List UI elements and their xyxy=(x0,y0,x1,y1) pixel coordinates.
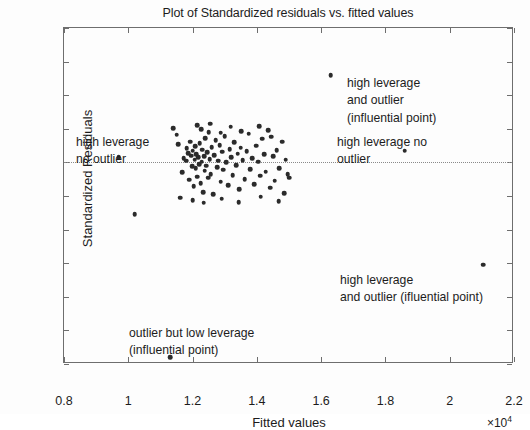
data-point xyxy=(254,143,259,148)
data-point xyxy=(219,196,224,201)
x-tick-label: 2 xyxy=(425,394,475,408)
x-tick-label: 1.2 xyxy=(168,394,218,408)
annotation-outlier-but-low-leverage: outlier but low leverage (influential po… xyxy=(129,325,254,360)
chart-title: Plot of Standardized residuals vs. fitte… xyxy=(63,6,513,20)
data-point xyxy=(193,166,198,171)
data-point xyxy=(248,167,253,172)
y-tick-mark-right xyxy=(507,364,512,365)
data-point xyxy=(216,158,221,163)
data-point xyxy=(215,165,220,170)
data-point xyxy=(199,127,204,132)
data-point xyxy=(481,263,486,268)
data-point xyxy=(234,163,239,168)
data-point xyxy=(171,126,176,131)
y-axis-title: Standardized Residuals xyxy=(80,64,95,294)
data-point xyxy=(191,198,196,203)
data-point xyxy=(282,191,287,196)
data-point xyxy=(201,190,206,195)
data-point xyxy=(268,185,273,190)
data-point xyxy=(187,178,192,183)
data-point xyxy=(274,148,279,153)
data-point xyxy=(256,159,261,164)
data-point xyxy=(244,149,249,154)
data-point xyxy=(240,158,245,163)
data-point xyxy=(252,182,257,187)
x-axis-multiplier: ×104 xyxy=(487,414,512,430)
data-point xyxy=(193,144,198,149)
data-point xyxy=(184,158,189,163)
annotation-high-leverage-and-outlier-low: high leverage and outlier (ifluential po… xyxy=(340,272,483,307)
data-point xyxy=(246,131,251,136)
data-point xyxy=(273,179,278,184)
data-point xyxy=(287,175,292,180)
plot-frame: 43210−1−2−3−4−5−6 0.811.21.41.61.822.2 S… xyxy=(63,27,513,363)
data-point xyxy=(197,141,202,146)
data-point xyxy=(258,174,263,179)
data-point xyxy=(213,138,218,143)
data-point xyxy=(283,157,288,162)
data-point xyxy=(280,139,285,144)
x-axis-title: Fitted values xyxy=(64,415,514,430)
annotation-high-leverage-no-outlier-left: high leverage no outlier xyxy=(76,134,149,169)
data-point xyxy=(199,159,204,164)
data-point xyxy=(178,195,183,200)
data-point xyxy=(202,154,207,159)
data-point xyxy=(201,200,206,205)
data-point xyxy=(239,129,244,134)
data-point xyxy=(188,139,193,144)
data-point xyxy=(264,170,269,175)
data-point xyxy=(238,145,243,150)
data-point xyxy=(262,152,267,157)
data-point xyxy=(195,174,200,179)
x-tick-label: 1 xyxy=(103,394,153,408)
annotation-high-leverage-no-outlier-right: high leverage no outlier xyxy=(337,134,427,169)
data-point xyxy=(132,212,137,217)
data-point xyxy=(269,135,274,140)
data-point xyxy=(219,180,224,185)
data-point xyxy=(224,160,229,165)
x-tick-mark-top xyxy=(514,28,515,33)
data-point xyxy=(208,172,213,177)
x-tick-label: 1.8 xyxy=(360,394,410,408)
data-point xyxy=(230,173,235,178)
data-point xyxy=(211,192,216,197)
data-point xyxy=(266,128,271,133)
data-point xyxy=(260,137,265,142)
data-point xyxy=(232,140,237,145)
data-point xyxy=(219,131,224,136)
data-point xyxy=(204,163,209,168)
data-point xyxy=(237,187,242,192)
data-point xyxy=(212,153,217,158)
data-point xyxy=(328,73,333,78)
x-tick-label: 1.6 xyxy=(296,394,346,408)
x-axis-multiplier-exponent: 4 xyxy=(507,414,512,424)
data-point xyxy=(220,149,225,154)
data-point xyxy=(250,156,255,161)
data-point xyxy=(228,124,233,129)
data-point xyxy=(242,177,247,182)
data-point xyxy=(226,183,231,188)
data-point xyxy=(227,147,232,152)
data-point xyxy=(176,142,181,147)
x-tick-label: 2.2 xyxy=(489,394,530,408)
y-tick-mark xyxy=(64,364,69,365)
x-tick-label: 0.8 xyxy=(39,394,89,408)
data-point xyxy=(210,145,215,150)
data-point xyxy=(206,130,211,135)
plot-area xyxy=(64,28,512,362)
data-point xyxy=(202,169,207,174)
data-point xyxy=(208,121,213,126)
data-point xyxy=(257,124,262,129)
x-axis-multiplier-base: ×10 xyxy=(487,416,507,430)
x-tick-mark xyxy=(514,357,515,362)
data-point xyxy=(205,150,210,155)
data-point xyxy=(221,167,226,172)
data-point xyxy=(180,170,185,175)
data-point xyxy=(191,184,196,189)
data-point xyxy=(258,194,263,199)
data-point xyxy=(207,157,212,162)
annotation-high-leverage-and-outlier: high leverage and outlier (influential p… xyxy=(347,75,436,127)
x-tick-label: 1.4 xyxy=(232,394,282,408)
data-point xyxy=(229,155,234,160)
